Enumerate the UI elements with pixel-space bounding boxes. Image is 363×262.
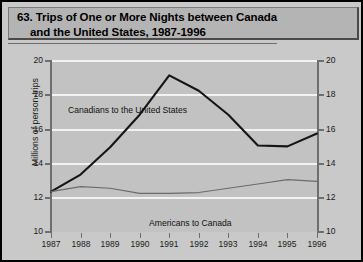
chart-figure: 63. Trips of One or More Nights between … [0,0,363,262]
title-line-1: 63. Trips of One or More Nights between … [17,11,277,23]
page-title: 63. Trips of One or More Nights between … [17,10,353,39]
title-line-2: and the United States, 1987-1996 [17,25,353,40]
title-band: 63. Trips of One or More Nights between … [8,7,359,40]
series-label-canadians-to-us: Canadians to the United States [68,105,187,115]
plot-container: Millions of person-trips 20 18 16 14 12 … [8,43,359,256]
series-label-americans-to-canada: Americans to Canada [149,218,232,228]
series-canadians-to-us [51,75,317,191]
series-americans-to-canada [51,180,317,194]
